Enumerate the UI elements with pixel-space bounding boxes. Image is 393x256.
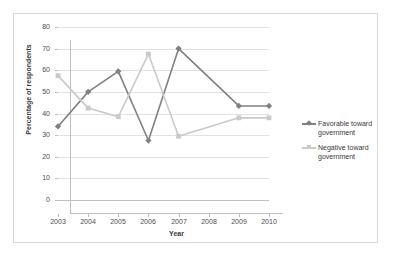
data-point-square	[116, 114, 121, 119]
legend-label-line2: government	[318, 129, 355, 136]
data-point-square	[146, 52, 151, 57]
data-point-diamond	[145, 137, 151, 143]
series-line	[58, 54, 269, 136]
data-point-square	[176, 134, 181, 139]
data-point-square	[236, 115, 241, 120]
data-point-square	[86, 106, 91, 111]
data-point-square	[267, 115, 272, 120]
legend-item[interactable]: Negative towardgovernment	[302, 143, 388, 161]
legend-label-line1: Favorable toward	[318, 120, 372, 127]
legend-label-line1: Negative toward	[318, 144, 369, 151]
legend-item[interactable]: Favorable towardgovernment	[302, 119, 388, 137]
data-point-diamond	[266, 103, 272, 109]
chart-legend: Favorable towardgovernmentNegative towar…	[302, 119, 388, 167]
data-point-square	[56, 73, 61, 78]
legend-label-line2: government	[318, 153, 355, 160]
chart-figure: 01020304050607080 2003200420052006200720…	[0, 0, 393, 256]
legend-diamond-icon	[302, 122, 316, 125]
chart-frame: 01020304050607080 2003200420052006200720…	[13, 13, 378, 243]
legend-square-icon	[302, 146, 316, 149]
